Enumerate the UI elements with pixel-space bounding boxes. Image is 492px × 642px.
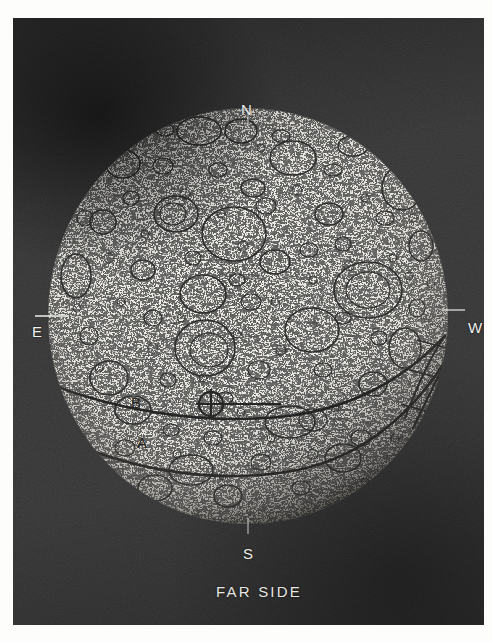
photographic-plate: B A N S E W FAR SIDE: [13, 18, 484, 625]
compass-label-east: E: [32, 324, 43, 339]
compass-label-north: N: [241, 102, 252, 117]
track-label-a: A: [137, 434, 147, 451]
compass-label-south: S: [243, 546, 254, 561]
far-side-figure: B A N S E W FAR SIDE: [0, 0, 492, 642]
figure-caption: FAR SIDE: [13, 583, 484, 600]
track-label-b: B: [131, 394, 141, 411]
compass-label-west: W: [468, 320, 483, 335]
